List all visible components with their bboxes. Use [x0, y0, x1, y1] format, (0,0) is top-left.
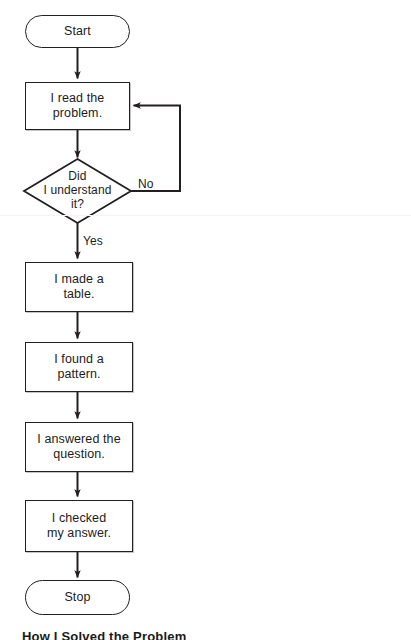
node-read-the-problem: I read the problem. [25, 82, 130, 130]
node-start: Start [25, 15, 130, 48]
node-i-checked-my-answer-label: I checked my answer. [26, 501, 132, 551]
node-stop: Stop [25, 580, 130, 615]
edge-label-yes: Yes [83, 234, 103, 248]
edge-label-no: No [138, 177, 154, 191]
node-did-i-understand-it: Did I understand it? [24, 159, 131, 223]
node-start-label: Start [26, 16, 129, 47]
node-i-found-a-pattern-label: I found a pattern. [26, 343, 132, 391]
node-stop-label: Stop [26, 581, 129, 614]
node-i-made-a-table: I made a table. [25, 262, 133, 312]
node-i-checked-my-answer: I checked my answer. [25, 500, 133, 552]
node-read-the-problem-label: I read the problem. [26, 83, 129, 129]
figure-caption: How I Solved the Problem [22, 629, 186, 640]
node-i-made-a-table-label: I made a table. [26, 263, 132, 311]
node-i-found-a-pattern: I found a pattern. [25, 342, 133, 392]
node-i-answered-the-question: I answered the question. [25, 422, 133, 472]
node-i-answered-the-question-label: I answered the question. [26, 423, 132, 471]
node-did-i-understand-it-label: Did I understand it? [24, 159, 131, 223]
